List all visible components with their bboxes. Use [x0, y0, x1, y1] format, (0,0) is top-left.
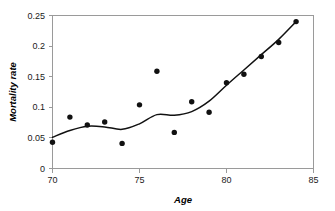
y-axis-title: Mortality rate	[7, 61, 18, 121]
y-tick-label: 0.15	[27, 72, 45, 82]
data-point	[241, 72, 246, 77]
y-tick-label: 0.2	[32, 41, 45, 51]
data-point	[189, 99, 194, 104]
data-point	[102, 119, 107, 124]
x-tick-label: 85	[308, 175, 318, 185]
x-tick-label: 75	[134, 175, 144, 185]
data-point	[50, 139, 55, 144]
fitted-curve-layer	[53, 22, 297, 138]
data-point	[85, 122, 90, 127]
data-point	[137, 102, 142, 107]
y-tick-label: 0.25	[27, 11, 45, 21]
chart-canvas: 0.25 0.2 0.15 0.1 0.05 0 70 75 80 85 Age…	[0, 0, 335, 211]
x-tick-label: 70	[47, 175, 57, 185]
x-tick-label: 80	[221, 175, 231, 185]
x-axis-ticks	[53, 169, 314, 173]
data-point	[224, 80, 229, 85]
data-point	[206, 110, 211, 115]
fitted-curve	[53, 22, 297, 138]
data-point	[154, 68, 159, 73]
x-axis-tick-labels: 70 75 80 85	[47, 175, 318, 185]
y-tick-label: 0.1	[32, 102, 45, 112]
data-point	[259, 54, 264, 59]
y-tick-label: 0.05	[27, 133, 45, 143]
y-axis-tick-labels: 0.25 0.2 0.15 0.1 0.05 0	[27, 11, 45, 174]
data-point	[172, 130, 177, 135]
data-point	[293, 19, 298, 24]
y-tick-label: 0	[40, 164, 45, 174]
y-axis-ticks	[49, 16, 53, 169]
data-points-layer	[50, 19, 299, 146]
plot-border	[53, 16, 314, 169]
data-point	[67, 114, 72, 119]
mortality-rate-chart: 0.25 0.2 0.15 0.1 0.05 0 70 75 80 85 Age…	[0, 0, 335, 211]
data-point	[276, 40, 281, 45]
plot-frame	[53, 16, 314, 169]
data-point	[119, 141, 124, 146]
x-axis-title: Age	[173, 194, 193, 205]
